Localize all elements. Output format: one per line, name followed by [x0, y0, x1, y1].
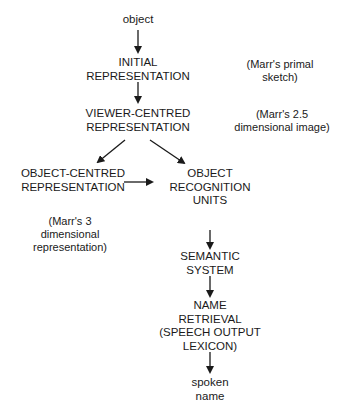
note-marr-3-dimensional: (Marr's 3 dimensional representation) — [20, 215, 120, 254]
node-semantic-system: SEMANTIC SYSTEM — [160, 250, 260, 277]
arrow-viewer-oru — [150, 140, 184, 163]
arrow-viewer-objcentred — [98, 140, 125, 162]
node-name-retrieval: NAME RETRIEVAL (SPEECH OUTPUT LEXICON) — [150, 299, 270, 353]
node-viewer-centred-representation: VIEWER-CENTRED REPRESENTATION — [68, 107, 208, 134]
node-spoken-name: spoken name — [170, 376, 250, 403]
note-marr-2-5-dimensional: (Marr's 2.5 dimensional image) — [222, 108, 342, 134]
node-object-centred-representation: OBJECT-CENTRED REPRESENTATION — [8, 167, 138, 194]
note-marr-primal-sketch: (Marr's primal sketch) — [225, 58, 335, 84]
node-object-recognition-units: OBJECT RECOGNITION UNITS — [155, 167, 265, 208]
node-initial-representation: INITIAL REPRESENTATION — [68, 56, 208, 83]
node-object: object — [98, 13, 178, 27]
